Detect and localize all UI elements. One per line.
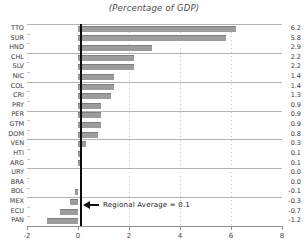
row-label: SLV <box>0 62 25 72</box>
group-separator-line <box>27 82 282 83</box>
bar <box>60 209 78 215</box>
row-label: CHL <box>0 53 25 63</box>
group-separator-line <box>27 168 282 169</box>
value-label: -0.3 <box>284 197 303 207</box>
x-axis-tick <box>231 227 232 230</box>
x-axis-tick-label: 6 <box>221 232 241 240</box>
bar <box>78 93 111 99</box>
row-label: TTO <box>0 24 25 34</box>
bar <box>78 64 134 70</box>
row-label: VEN <box>0 139 25 149</box>
x-axis-tick-label: 0 <box>68 232 88 240</box>
value-label: 1.4 <box>284 72 303 82</box>
regional-average-label: Regional Average = 0.1 <box>103 201 190 209</box>
group-separator-line <box>27 197 282 198</box>
row-label: ARG <box>0 159 25 169</box>
value-label: 0.9 <box>284 120 303 130</box>
row-label: DOM <box>0 130 25 140</box>
value-labels-column: 6.25.82.92.22.21.41.41.30.90.90.90.80.30… <box>284 24 303 226</box>
row-label: SUR <box>0 34 25 44</box>
x-axis-tick-label: 4 <box>170 232 190 240</box>
bar <box>47 218 78 224</box>
row-label: PER <box>0 110 25 120</box>
bar <box>78 45 152 51</box>
row-label: ECU <box>0 207 25 217</box>
row-label: HND <box>0 43 25 53</box>
x-axis-tick-label: -2 <box>17 232 37 240</box>
category-axis-labels: TTOSURHNDCHLSLVNICCOLCRIPRYPERGTMDOMVENH… <box>0 24 25 226</box>
group-separator-line <box>27 139 282 140</box>
value-label: -1.2 <box>284 216 303 226</box>
dotted-gridline <box>231 24 232 226</box>
regional-average-annotation: Regional Average = 0.1 <box>83 201 190 209</box>
row-tick <box>27 72 30 73</box>
row-label: BOL <box>0 187 25 197</box>
value-label: 0.9 <box>284 110 303 120</box>
row-label: NIC <box>0 72 25 82</box>
value-label: 1.4 <box>284 82 303 92</box>
row-tick <box>27 91 30 92</box>
x-axis-tick <box>180 227 181 230</box>
chart-title: (Percentage of GDP) <box>0 3 308 13</box>
value-label: 2.9 <box>284 43 303 53</box>
x-axis-tick-label: 8 <box>272 232 292 240</box>
value-label: -0.1 <box>284 187 303 197</box>
row-tick <box>27 62 30 63</box>
row-label: COL <box>0 82 25 92</box>
row-label: BRA <box>0 178 25 188</box>
row-tick <box>27 34 30 35</box>
value-label: 0.9 <box>284 101 303 111</box>
value-label: 6.2 <box>284 24 303 34</box>
value-label: 2.2 <box>284 53 303 63</box>
group-separator-line <box>27 111 282 112</box>
value-label: 0.0 <box>284 168 303 178</box>
plot-area: Regional Average = 0.1 <box>27 24 282 226</box>
regional-average-line <box>80 24 82 226</box>
row-tick <box>27 43 30 44</box>
bar <box>78 84 114 90</box>
row-label: HTI <box>0 149 25 159</box>
x-axis-tick <box>129 227 130 230</box>
row-tick <box>27 178 30 179</box>
row-tick <box>27 149 30 150</box>
row-tick <box>27 188 30 189</box>
row-tick <box>27 130 30 131</box>
left-arrow-shaft <box>90 204 99 206</box>
row-tick <box>27 159 30 160</box>
row-label: GTM <box>0 120 25 130</box>
x-axis-tick <box>27 227 28 230</box>
value-label: 0.1 <box>284 149 303 159</box>
value-label: 0.0 <box>284 178 303 188</box>
value-label: 1.3 <box>284 91 303 101</box>
value-label: 0.1 <box>284 159 303 169</box>
bar <box>70 199 78 205</box>
x-axis-tick <box>282 227 283 230</box>
value-label: 2.2 <box>284 62 303 72</box>
value-label: 5.8 <box>284 34 303 44</box>
x-axis: -202468 <box>27 226 283 247</box>
bar <box>78 26 236 32</box>
row-tick <box>27 207 30 208</box>
bar <box>78 55 134 61</box>
value-label: 0.8 <box>284 130 303 140</box>
row-tick <box>27 120 30 121</box>
bar-chart: (Percentage of GDP) TTOSURHNDCHLSLVNICCO… <box>0 0 308 249</box>
x-axis-tick <box>78 227 79 230</box>
dotted-gridline <box>180 24 181 226</box>
row-label: CRI <box>0 91 25 101</box>
row-label: PAN <box>0 216 25 226</box>
group-separator-line <box>27 53 282 54</box>
row-label: MEX <box>0 197 25 207</box>
x-axis-tick-label: 2 <box>119 232 139 240</box>
row-label: URY <box>0 168 25 178</box>
row-label: PRY <box>0 101 25 111</box>
bar <box>78 74 114 80</box>
row-tick <box>27 216 30 217</box>
left-arrow-icon <box>83 201 90 209</box>
value-label: -0.7 <box>284 207 303 217</box>
value-label: 0.3 <box>284 139 303 149</box>
bar <box>78 35 226 41</box>
bar <box>75 189 78 195</box>
row-tick <box>27 101 30 102</box>
